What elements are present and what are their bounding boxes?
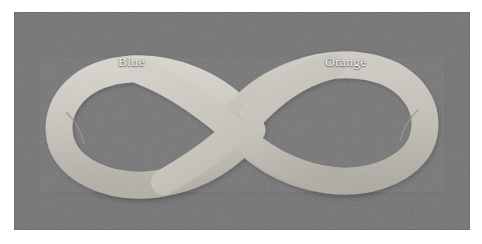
label-blue: Blue (118, 55, 145, 69)
photograph-plate: Blue Orange (14, 12, 470, 230)
band-illustration (14, 12, 470, 230)
figure-root: Blue Orange (0, 0, 482, 244)
label-orange: Orange (325, 55, 367, 69)
